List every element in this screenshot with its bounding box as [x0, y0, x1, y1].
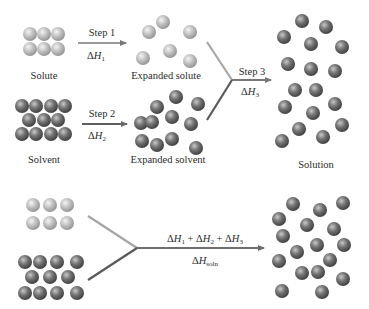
solvent-particle: [304, 37, 318, 51]
step3-solute-line: [207, 42, 232, 80]
step3-delta-h: ΔH3: [241, 86, 259, 99]
solvent-particle: [51, 113, 65, 127]
solvent-particle: [150, 100, 164, 114]
sum-delta-h-label: ΔH1 + ΔH2 + ΔH3: [167, 233, 243, 246]
solvent-particle: [295, 14, 309, 28]
solvent-particle: [44, 99, 58, 113]
solvent-particle: [313, 203, 327, 217]
solvent-particle: [145, 115, 159, 129]
solvent-particle: [288, 83, 302, 97]
expanded-solvent-particles: [134, 90, 205, 155]
solvent-particle: [15, 99, 29, 113]
solvent-particle: [276, 229, 290, 243]
expanded-solute-label: Expanded solute: [131, 70, 201, 81]
solvent-particles: [15, 99, 72, 141]
solvent-particle: [277, 30, 291, 44]
solvent-particle: [323, 253, 337, 267]
solvent-particle: [319, 20, 333, 34]
solute-particle: [60, 198, 74, 212]
solution-label: Solution: [298, 159, 334, 170]
solvent-particle: [18, 255, 32, 269]
solvent-particle: [22, 113, 36, 127]
solvent-particle: [165, 132, 179, 146]
solvent-particle: [18, 286, 32, 300]
solute-particle: [51, 42, 65, 56]
delta-h-soln-label: ΔHsoln: [192, 255, 219, 268]
solvent-particle: [336, 196, 350, 210]
solvent-particle: [169, 90, 183, 104]
solvent-particle: [50, 286, 64, 300]
solvent-particle: [58, 99, 72, 113]
solute-particle: [37, 27, 51, 41]
solute-label: Solute: [31, 70, 58, 81]
solvent-particle: [33, 255, 47, 269]
solvent-particle: [290, 245, 304, 259]
solvent-particle: [135, 134, 149, 148]
solute-particle: [60, 216, 74, 230]
solute-particle: [43, 198, 57, 212]
solvent-particle: [335, 40, 349, 54]
solvent-particle: [275, 284, 289, 298]
solvent-particles-bottom: [18, 255, 84, 300]
solute-particles-bottom: [26, 198, 74, 230]
solvent-particle: [315, 285, 329, 299]
solvent-particle: [50, 255, 64, 269]
solvent-particle: [33, 286, 47, 300]
solvent-particle: [306, 106, 320, 120]
solute-particle: [183, 54, 197, 68]
solvent-particle: [275, 134, 289, 148]
solvent-particle: [292, 122, 306, 136]
solute-particle: [26, 216, 40, 230]
solvent-particle: [70, 286, 84, 300]
solvent-particle: [328, 64, 342, 78]
solvent-particle: [336, 272, 350, 286]
solvent-particle: [184, 117, 198, 131]
step2-delta-h: ΔH2: [88, 130, 106, 143]
solvent-particle: [70, 255, 84, 269]
solvent-particle: [316, 130, 330, 144]
enthalpy-diagram: Step 1 ΔH1 Step 2 ΔH2 Step 3 ΔH3 Solute …: [0, 0, 369, 309]
solute-particle: [23, 27, 37, 41]
solvent-particle: [311, 265, 325, 279]
solvent-particle: [37, 113, 51, 127]
solute-particle: [156, 15, 170, 29]
solvent-particle: [165, 110, 179, 124]
solvent-particle: [58, 127, 72, 141]
solute-particle: [43, 216, 57, 230]
solvent-particle: [272, 212, 286, 226]
solute-particle: [37, 42, 51, 56]
solvent-particle: [328, 97, 342, 111]
step2-label: Step 2: [89, 108, 116, 119]
solvent-particle: [300, 218, 314, 232]
solution-particles-bottom: [272, 196, 351, 299]
solvent-particle: [43, 270, 57, 284]
step3-label: Step 3: [239, 66, 266, 77]
solution-particles: [275, 14, 349, 148]
solvent-particle: [150, 138, 164, 152]
solvent-label: Solvent: [28, 154, 60, 165]
solvent-particle: [191, 97, 205, 111]
solvent-particle: [295, 266, 309, 280]
step1-delta-h: ΔH1: [87, 50, 105, 63]
expanded-solute-particles: [136, 15, 197, 68]
solvent-particle: [310, 238, 324, 252]
solvent-particle: [272, 254, 286, 268]
solvent-particle: [327, 222, 341, 236]
solute-particle: [142, 25, 156, 39]
solvent-particle: [335, 118, 349, 132]
expanded-solvent-label: Expanded solvent: [131, 154, 206, 165]
solvent-particle: [15, 127, 29, 141]
solute-particles: [23, 27, 65, 56]
overall-solute-line: [88, 216, 137, 248]
solvent-particle: [25, 270, 39, 284]
solvent-particle: [61, 270, 75, 284]
solvent-particle: [29, 127, 43, 141]
solvent-particle: [29, 99, 43, 113]
solvent-particle: [278, 100, 292, 114]
solvent-particle: [304, 62, 318, 76]
solvent-particle: [286, 197, 300, 211]
overall-solvent-line: [88, 248, 137, 280]
step3-solvent-line: [207, 80, 232, 120]
solute-particle: [51, 27, 65, 41]
solute-particle: [183, 25, 197, 39]
